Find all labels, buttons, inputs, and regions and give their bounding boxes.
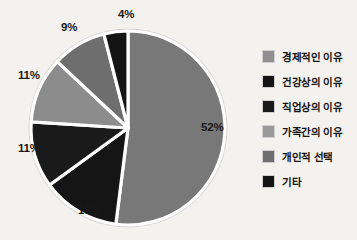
legend-item-label: 개인적 선택	[282, 149, 333, 164]
slice-value-label-family: 11%	[18, 70, 40, 82]
slice-value-label-economic: 52%	[201, 122, 223, 134]
slice-value-label-occupational: 11%	[18, 143, 40, 155]
legend-item-other[interactable]: 기타	[262, 169, 357, 194]
legend-swatch-icon	[262, 75, 275, 88]
pie-chart-plot-area: 52% 13% 11% 11% 9% 4%	[0, 0, 250, 240]
legend-swatch-icon	[262, 150, 275, 163]
pie-chart-figure: 52% 13% 11% 11% 9% 4% 경제적인 이유 건강상의 이유 직업…	[0, 0, 357, 240]
slice-value-label-health: 13%	[78, 205, 100, 217]
legend-item-label: 건강상의 이유	[282, 74, 343, 89]
chart-legend: 경제적인 이유 건강상의 이유 직업상의 이유 가족간의 이유 개인적 선택 기…	[262, 44, 357, 194]
slice-value-label-other: 4%	[118, 9, 134, 21]
legend-item-label: 경제적인 이유	[282, 49, 343, 64]
legend-swatch-icon	[262, 125, 275, 138]
legend-item-family[interactable]: 가족간의 이유	[262, 119, 357, 144]
legend-item-economic[interactable]: 경제적인 이유	[262, 44, 357, 69]
slice-value-label-personal: 9%	[61, 22, 77, 34]
legend-item-health[interactable]: 건강상의 이유	[262, 69, 357, 94]
legend-swatch-icon	[262, 50, 275, 63]
pie-chart-svg	[0, 0, 250, 240]
legend-swatch-icon	[262, 175, 275, 188]
legend-item-label: 직업상의 이유	[282, 99, 343, 114]
legend-item-label: 가족간의 이유	[282, 124, 343, 139]
legend-item-label: 기타	[282, 174, 301, 189]
legend-item-occupational[interactable]: 직업상의 이유	[262, 94, 357, 119]
legend-swatch-icon	[262, 100, 275, 113]
legend-item-personal-choice[interactable]: 개인적 선택	[262, 144, 357, 169]
